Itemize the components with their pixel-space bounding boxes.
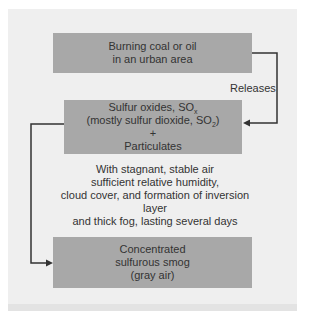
node-text-line: Particulates — [64, 140, 242, 153]
edge-label-releases: Releases — [230, 82, 276, 95]
node-text-line: (mostly sulfur dioxide, SO2) — [64, 114, 242, 127]
condition-line: sufficient relative humidity, — [50, 176, 260, 189]
node-text-line: Concentrated — [53, 243, 252, 256]
node-text-line: in an urban area — [53, 53, 252, 66]
node-text-line: + — [64, 127, 242, 140]
condition-line: With stagnant, stable air — [50, 163, 260, 176]
node-text-line: (gray air) — [53, 269, 252, 282]
node-burning-coal: Burning coal or oil in an urban area — [53, 33, 252, 73]
arrowhead-icon — [46, 260, 53, 267]
node-sulfur-oxides: Sulfur oxides, SOx (mostly sulfur dioxid… — [64, 100, 242, 154]
node-text-line: sulfurous smog — [53, 256, 252, 269]
condition-line: and thick fog, lasting several days — [50, 215, 260, 228]
node-text-line: Sulfur oxides, SOx — [64, 101, 242, 114]
node-sulfurous-smog: Concentrated sulfurous smog (gray air) — [53, 237, 252, 288]
condition-line: cloud cover, and formation of inversion … — [50, 189, 260, 215]
edge-label-conditions: With stagnant, stable air sufficient rel… — [50, 163, 260, 228]
node-text-line: Burning coal or oil — [53, 40, 252, 53]
arrowhead-icon — [243, 120, 250, 127]
